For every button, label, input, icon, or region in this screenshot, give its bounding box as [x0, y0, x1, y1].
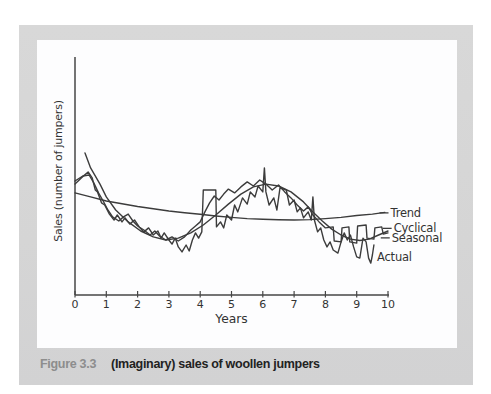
chart-area: 012345678910YearsSales (number of jumper… — [37, 40, 457, 348]
sales-decomposition-chart: 012345678910YearsSales (number of jumper… — [37, 40, 457, 348]
scanned-book-page: 012345678910YearsSales (number of jumper… — [0, 0, 491, 394]
figure-number-label: Figure 3.3 — [40, 357, 96, 371]
x-tick-label: 8 — [322, 298, 329, 311]
series-seasonal-line — [75, 175, 388, 243]
legend-label-actual: Actual — [377, 250, 412, 264]
x-tick-label: 7 — [291, 298, 298, 311]
legend-label-seasonal: Seasonal — [392, 231, 442, 245]
x-tick-label: 9 — [353, 298, 360, 311]
x-tick-label: 5 — [228, 298, 235, 311]
x-tick-label: 4 — [197, 298, 204, 311]
figure-panel: 012345678910YearsSales (number of jumper… — [19, 25, 473, 385]
x-tick-label: 0 — [72, 298, 79, 311]
x-axis-title: Years — [214, 312, 247, 326]
x-tick-label: 2 — [134, 298, 141, 311]
figure-caption: Figure 3.3 (Imaginary) sales of woollen … — [40, 357, 320, 371]
y-axis-title: Sales (number of jumpers) — [52, 100, 65, 242]
x-tick-label: 1 — [103, 298, 110, 311]
x-tick-label: 10 — [381, 298, 395, 311]
figure-caption-text: (Imaginary) sales of woollen jumpers — [111, 357, 320, 371]
legend-label-trend: Trend — [390, 206, 421, 220]
x-tick-label: 3 — [165, 298, 172, 311]
series-actual-line — [75, 168, 374, 263]
x-tick-label: 6 — [259, 298, 266, 311]
